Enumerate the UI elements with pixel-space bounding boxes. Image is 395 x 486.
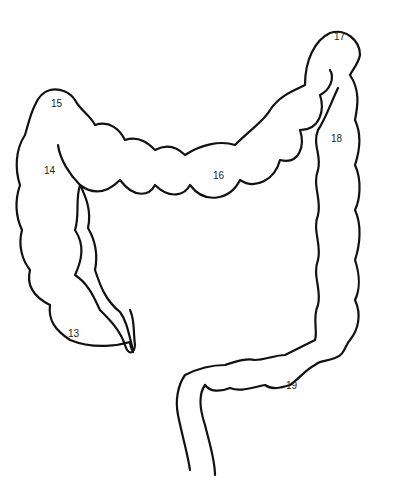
label-15: 15 <box>51 98 62 109</box>
label-14: 14 <box>44 165 55 176</box>
colon-outline <box>0 0 395 486</box>
label-19: 19 <box>286 380 297 391</box>
label-18: 18 <box>331 133 342 144</box>
label-13: 13 <box>68 328 79 339</box>
label-17: 17 <box>334 31 345 42</box>
label-16: 16 <box>213 170 224 181</box>
